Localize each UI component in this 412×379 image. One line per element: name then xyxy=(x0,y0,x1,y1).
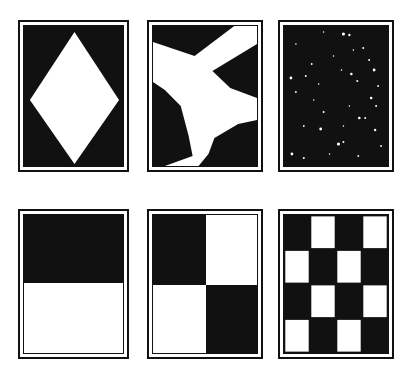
card-diamond xyxy=(18,20,129,172)
card-quadrants xyxy=(147,209,263,359)
quadrant-bottom-right xyxy=(206,285,257,353)
quadrant-top-left xyxy=(153,215,206,285)
card-airplane xyxy=(147,20,263,172)
card-starfield xyxy=(278,20,394,172)
card-quadrants-panel xyxy=(152,214,258,354)
card-diamond-panel xyxy=(23,25,124,167)
card-airplane-panel xyxy=(152,25,258,167)
card-half-split xyxy=(18,209,129,359)
card-half-split-panel xyxy=(23,214,124,354)
card-checkerboard-panel xyxy=(283,214,389,354)
card-starfield-panel xyxy=(283,25,389,167)
speckle-pattern xyxy=(284,26,388,166)
card-checkerboard xyxy=(278,209,394,359)
diamond-shape xyxy=(24,26,123,166)
checkerboard-pattern xyxy=(284,215,388,353)
black-top-half xyxy=(24,215,123,283)
airplane-silhouette xyxy=(153,26,257,166)
